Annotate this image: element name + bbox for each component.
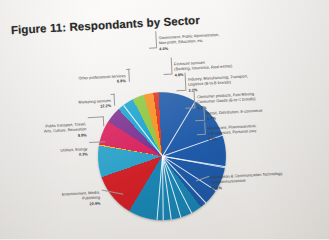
leader-financial — [171, 58, 172, 74]
leader-government — [155, 31, 156, 47]
callout-entertainment-text: Entertainment, Media, Publishing — [62, 190, 101, 201]
callout-healthcare: Healthcare, Pharmaceutical, Life science… — [207, 116, 300, 147]
leader-other-prof-h — [126, 69, 130, 70]
leader-financial-h — [164, 73, 173, 74]
callout-other-prof: Other professional services 6.8% — [51, 68, 126, 93]
callout-government: Government, Public Administration, Non-p… — [158, 26, 245, 57]
leader-government-h — [149, 47, 157, 48]
callout-marketing: Marketing services 12.2% — [41, 93, 112, 118]
callout-marketing-pct: 12.2% — [41, 103, 111, 112]
callout-utilities: Utilities, Energy 0.3% — [25, 141, 88, 165]
leader-other-prof — [128, 69, 129, 82]
callout-utilities-pct: 0.3% — [26, 152, 88, 161]
callout-entertainment-pct: 20.9% — [24, 200, 100, 209]
callout-ict: Information & Communication Technology, … — [210, 164, 311, 196]
callout-entertainment: Entertainment, Media, Publishing 20.9% — [24, 185, 101, 215]
